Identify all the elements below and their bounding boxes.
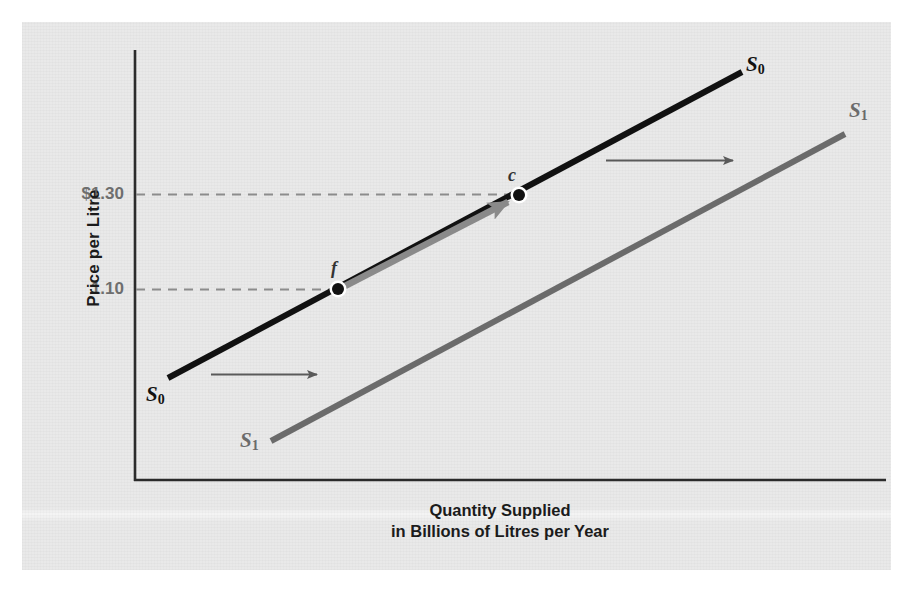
point-c-marker [511, 187, 528, 204]
curve-label-s0-lower-left: S0 [146, 382, 165, 408]
curve-label-s1-lower-left-sub: 1 [252, 438, 259, 453]
dashed-guides [136, 195, 516, 290]
curve-label-s0-upper-right: S0 [746, 52, 765, 78]
axis-lines [134, 50, 886, 481]
x-axis-title: Quantity Supplied in Billions of Litres … [250, 500, 750, 542]
point-f-marker [330, 281, 347, 298]
y-tick-label-110: 1.10 [36, 279, 124, 299]
curve-label-s0-upper-right-letter: S [746, 52, 758, 76]
point-label-f: f [331, 258, 337, 279]
y-axis-title: Price per Litre [84, 148, 104, 348]
curve-label-s0-lower-left-sub: 0 [158, 392, 165, 407]
x-axis-title-line2: in Billions of Litres per Year [250, 521, 750, 542]
point-label-c: c [508, 165, 516, 186]
curve-label-s1-upper-right-letter: S [849, 98, 861, 122]
supply-curve-s1 [271, 134, 845, 441]
supply-curve-s0 [168, 72, 742, 378]
curve-label-s1-upper-right-sub: 1 [861, 108, 868, 123]
movement-arrow-f-to-c [345, 202, 508, 286]
curve-label-s0-lower-left-letter: S [146, 382, 158, 406]
figure-root: $1.30 1.10 Price per Litre Quantity Supp… [0, 0, 913, 597]
curve-label-s1-upper-right: S1 [849, 98, 868, 124]
curve-label-s0-upper-right-sub: 0 [758, 62, 765, 77]
curve-label-s1-lower-left-letter: S [240, 428, 252, 452]
curve-label-s1-lower-left: S1 [240, 428, 259, 454]
y-tick-label-130: $1.30 [36, 184, 124, 204]
x-axis-title-line1: Quantity Supplied [250, 500, 750, 521]
